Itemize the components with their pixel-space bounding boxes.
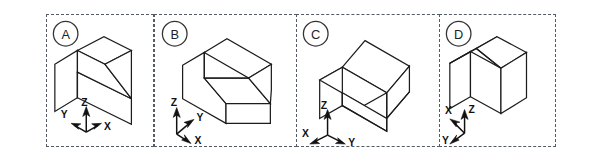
axis-y-label-c: Y	[348, 137, 355, 148]
panel-a: A Z	[46, 14, 154, 147]
axis-x-label-a: X	[104, 121, 111, 132]
solid-face-front-b	[226, 104, 270, 124]
badge-letter-a: A	[61, 27, 70, 42]
badge-letter-c: C	[311, 27, 320, 42]
badge-letter-d: D	[454, 27, 463, 42]
panel-b-drawing: B Z	[155, 15, 296, 146]
panel-d-axes: Z X Y	[442, 104, 476, 146]
panel-c-badge: C	[303, 21, 328, 46]
axis-x-label-b: X	[194, 135, 201, 146]
panel-c: C	[296, 14, 440, 147]
panel-b-solid	[183, 39, 272, 124]
axis-z-label-d: Z	[469, 104, 476, 115]
panel-d: D Z	[439, 14, 556, 147]
axis-z-label-a: Z	[81, 97, 87, 108]
badge-letter-b: B	[170, 27, 179, 42]
panel-a-badge: A	[53, 21, 78, 46]
axis-x-label-d: X	[445, 105, 452, 116]
isometric-views-figure: A Z	[0, 0, 602, 161]
panel-d-drawing: D Z	[440, 15, 555, 146]
panel-a-drawing: A Z	[47, 15, 153, 146]
axis-y-arrowhead-d	[450, 135, 459, 144]
solid-face-left-d	[450, 51, 471, 108]
axis-x-arrowhead-b	[182, 135, 191, 144]
panel-c-drawing: C	[297, 15, 439, 146]
solid-face-left-a	[55, 50, 78, 111]
axis-y-label-b: Y	[196, 112, 203, 123]
panel-b: B Z	[154, 14, 297, 147]
panel-c-solid	[320, 41, 410, 132]
panel-b-badge: B	[162, 21, 187, 46]
axis-y-label-a: Y	[61, 109, 68, 120]
axis-y-arrowhead-c	[335, 138, 345, 144]
axis-z-label-b: Z	[171, 97, 178, 108]
panel-d-badge: D	[446, 21, 471, 46]
axis-x-arrowhead-d	[450, 119, 460, 127]
axis-z-label-c: Z	[321, 100, 328, 111]
axis-y-label-d: Y	[442, 135, 449, 146]
panel-d-solid	[450, 37, 527, 114]
axis-x-label-c: X	[302, 128, 309, 139]
axis-x-arrowhead-c	[310, 138, 320, 144]
